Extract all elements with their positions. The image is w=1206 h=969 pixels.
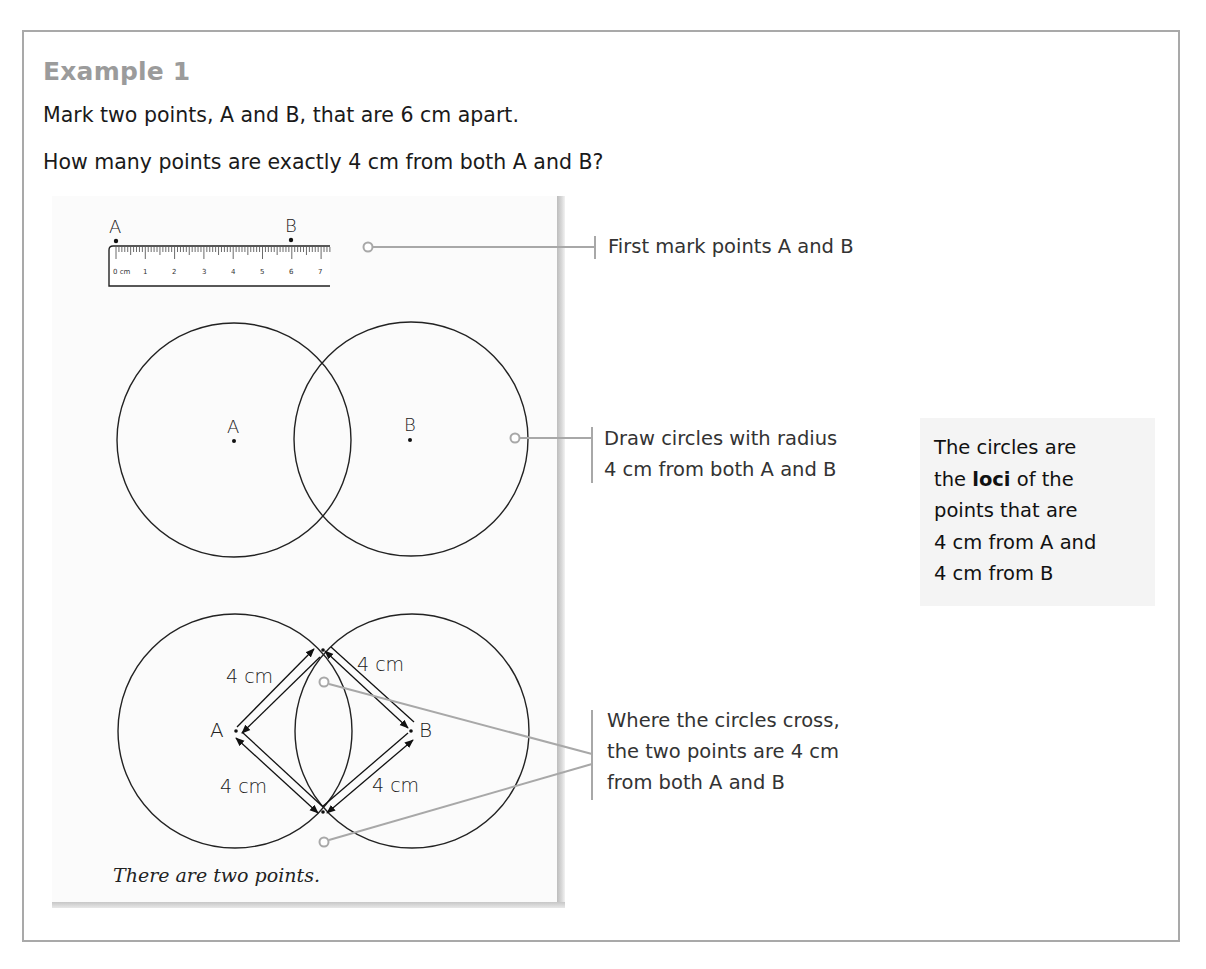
tick-label: 0 cm (113, 268, 131, 276)
intersection-top (321, 648, 325, 652)
lower-label-b: B (419, 718, 432, 742)
distance-label-bottom-right: 4 cm (372, 774, 419, 796)
leader-anchor-3a (320, 678, 329, 687)
distance-label-top-right: 4 cm (357, 653, 404, 675)
tick-label: 3 (202, 268, 206, 276)
center-b-dot (408, 438, 412, 442)
note-text: of the (1011, 468, 1074, 491)
lower-label-a: A (210, 718, 224, 742)
tick-label: 6 (289, 268, 294, 276)
center-a-label: A (227, 416, 239, 437)
note-text: the (934, 468, 972, 491)
note-line-4: 4 cm from A and (934, 527, 1155, 559)
callout-mark-points: First mark points A and B (608, 231, 854, 262)
tick-label: 7 (318, 268, 322, 276)
callout-line: First mark points A and B (608, 231, 854, 262)
callout-line: from both A and B (607, 767, 840, 798)
note-line-2: the loci of the (934, 464, 1155, 496)
distance-label-top-left: 4 cm (226, 665, 273, 687)
distance-label-bottom-left: 4 cm (220, 775, 267, 797)
leader-anchor-1 (364, 243, 373, 252)
note-line-1: The circles are (934, 432, 1155, 464)
ruler-label-b: B (285, 215, 297, 236)
point-b-dot (289, 238, 293, 242)
leader-anchor-2 (511, 434, 520, 443)
callout-draw-circles: Draw circles with radius 4 cm from both … (604, 423, 837, 485)
step2-circles (117, 322, 528, 557)
center-b-label: B (404, 414, 416, 435)
tick-label: 1 (143, 268, 147, 276)
tick-label: 2 (172, 268, 176, 276)
ruler: 0 cm 1 2 3 4 5 6 7 A B (109, 215, 330, 286)
tick-label: 4 (231, 268, 236, 276)
center-a-dot (232, 439, 236, 443)
point-b-lower-dot (409, 729, 413, 733)
point-a-dot (114, 239, 118, 243)
callout-intersections: Where the circles cross, the two points … (607, 705, 840, 798)
point-a-lower-dot (234, 729, 238, 733)
callout-line: Where the circles cross, (607, 705, 840, 736)
callout-leaders (320, 236, 596, 847)
callout-line: the two points are 4 cm (607, 736, 840, 767)
ruler-label-a: A (109, 216, 121, 237)
intersection-bottom (321, 810, 325, 814)
loci-note: The circles are the loci of the points t… (920, 418, 1155, 606)
callout-line: 4 cm from both A and B (604, 454, 837, 485)
callout-line: Draw circles with radius (604, 423, 837, 454)
leader-anchor-3b (320, 838, 329, 847)
tick-label: 5 (260, 268, 264, 276)
answer-text: There are two points. (113, 864, 320, 886)
note-line-3: points that are (934, 495, 1155, 527)
loci-keyword: loci (972, 468, 1010, 491)
note-line-5: 4 cm from B (934, 558, 1155, 590)
